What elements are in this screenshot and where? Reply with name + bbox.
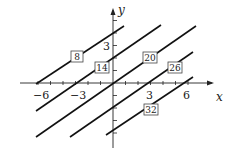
- level-label-32: 32: [144, 104, 158, 115]
- x-axis-label: x: [216, 90, 223, 104]
- svg-text:14: 14: [96, 63, 108, 73]
- svg-text:26: 26: [169, 63, 181, 73]
- svg-text:8: 8: [74, 52, 80, 62]
- level-label-26: 26: [168, 62, 182, 73]
- svg-text:20: 20: [144, 53, 156, 63]
- level-label-14: 14: [95, 62, 109, 73]
- svg-text:32: 32: [145, 105, 156, 115]
- y-tick-label-3: 3: [103, 40, 110, 53]
- level-label-20: 20: [143, 52, 157, 63]
- y-axis-label: y: [117, 3, 125, 17]
- y-ticks: [113, 21, 117, 134]
- x-axis-arrow-icon: [207, 81, 214, 86]
- x-tick-label-3: 3: [146, 89, 153, 102]
- x-tick-label-neg6: −6: [33, 89, 49, 102]
- level-curve-diagram: −6 −3 3 6 3 x y 8 14 20 26 32: [0, 0, 237, 152]
- y-axis-arrow-icon: [111, 8, 116, 15]
- level-label-8: 8: [71, 51, 83, 62]
- x-tick-label-6: 6: [183, 89, 190, 102]
- x-tick-label-neg3: −3: [70, 89, 86, 102]
